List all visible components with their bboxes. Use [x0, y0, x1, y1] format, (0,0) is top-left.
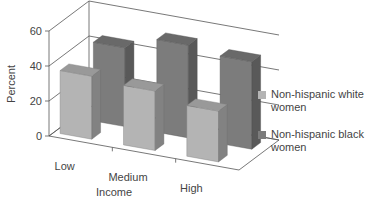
y-tick-label: 40 [30, 60, 42, 72]
legend-swatch-black-women [258, 131, 266, 139]
gridline-60 [49, 1, 279, 35]
x-tick-label-low: Low [55, 160, 75, 172]
bar-white-high-front [187, 106, 219, 162]
y-axis-title: Percent [5, 65, 17, 103]
y-tick-label: 0 [36, 130, 42, 142]
bar-white-medium-side [155, 84, 164, 150]
y-tick-label: 60 [30, 25, 42, 37]
legend-item-white-women: Non-hispanic white women [258, 88, 372, 114]
bar-white-low-front [60, 71, 92, 140]
chart-legend: Non-hispanic white women Non-hispanic bl… [258, 88, 372, 168]
y-tick-label: 20 [30, 95, 42, 107]
x-tick-label-high: High [180, 182, 203, 194]
bar-white-high-side [219, 105, 228, 162]
legend-swatch-white-women [258, 91, 266, 99]
bar-white-low-side [92, 70, 101, 140]
legend-label-black-women: Non-hispanic black women [271, 128, 372, 154]
x-tick-label-medium: Medium [108, 171, 147, 183]
bar-white-medium-front [124, 85, 156, 150]
x-axis-title: Income [96, 186, 132, 198]
legend-item-black-women: Non-hispanic black women [258, 128, 372, 154]
legend-label-white-women: Non-hispanic white women [271, 88, 372, 114]
